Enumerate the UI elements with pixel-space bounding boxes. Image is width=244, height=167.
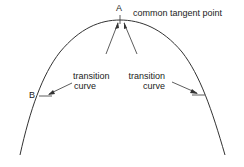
right-transition-line2: curve [126, 81, 165, 91]
tangent-point-label: common tangent point [133, 8, 222, 18]
point-a-label: A [116, 3, 122, 13]
right-transition-line1: transition [126, 71, 165, 81]
transition-curve-path [20, 20, 225, 155]
point-b-label: B [29, 90, 35, 100]
curve-diagram [0, 0, 244, 167]
arrowhead-left-a [115, 22, 119, 29]
arrowhead-right-transition [190, 89, 198, 94]
arrowhead-right-a [124, 22, 127, 29]
left-transition-label: transition curve [73, 71, 110, 91]
right-transition-label: transition curve [126, 71, 165, 91]
arrowhead-left-transition [48, 90, 55, 95]
left-transition-line2: curve [73, 81, 110, 91]
left-transition-line1: transition [73, 71, 110, 81]
